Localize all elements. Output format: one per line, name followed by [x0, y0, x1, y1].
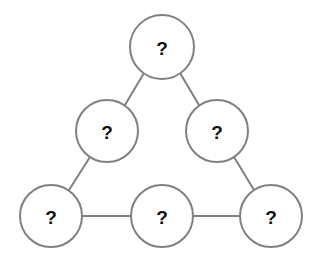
node-left-middle-label: ?: [101, 122, 113, 143]
edge-top-to-right-middle: [180, 73, 199, 105]
node-top[interactable]: ?: [130, 15, 194, 79]
edge-left-middle-to-bottom-left: [69, 157, 90, 190]
node-bottom-center-label: ?: [156, 207, 168, 228]
node-bottom-left[interactable]: ?: [20, 185, 82, 247]
node-bottom-left-label: ?: [45, 207, 57, 228]
node-bottom-right-label: ?: [265, 207, 277, 228]
node-group: ? ? ? ? ? ?: [20, 15, 302, 247]
node-top-label: ?: [156, 38, 168, 59]
puzzle-diagram-canvas: ? ? ? ? ? ?: [0, 0, 317, 270]
node-right-middle-label: ?: [211, 122, 223, 143]
node-left-middle[interactable]: ?: [76, 100, 138, 162]
node-bottom-center[interactable]: ?: [131, 185, 193, 247]
edge-top-to-left-middle: [125, 73, 144, 105]
triangle-puzzle-graph: ? ? ? ? ? ?: [0, 0, 317, 270]
edge-right-middle-to-bottom-right: [234, 157, 254, 190]
node-bottom-right[interactable]: ?: [240, 185, 302, 247]
node-right-middle[interactable]: ?: [186, 100, 248, 162]
